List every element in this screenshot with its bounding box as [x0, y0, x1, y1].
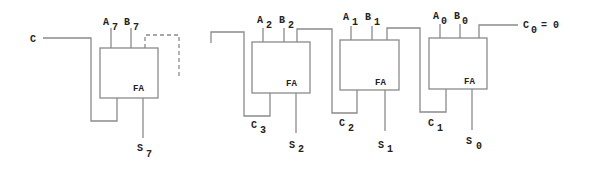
fa7-label: FA: [133, 84, 144, 94]
s7-subscript: 7: [146, 149, 152, 160]
full-adder-0: FA A 0 B 0 C 0 = 0 S 0 C 1: [428, 11, 559, 152]
fa0-label: FA: [464, 77, 475, 87]
a1-subscript: 1: [352, 17, 358, 28]
b7-subscript: 7: [133, 22, 139, 33]
fa0-box: [429, 38, 487, 89]
fa1-box: [340, 40, 399, 90]
b1-subscript: 1: [374, 17, 380, 28]
s2-label: S: [289, 140, 295, 151]
carry-out-label: C: [30, 34, 36, 45]
b2-label: B: [279, 15, 285, 26]
a7-subscript: 7: [112, 22, 118, 33]
fa2-label: FA: [286, 79, 297, 89]
c0-value: = 0: [541, 20, 559, 31]
c2-subscript: 2: [348, 123, 354, 134]
b7-label: B: [124, 17, 130, 28]
c0-subscript: 0: [531, 25, 537, 36]
a1-label: A: [343, 12, 349, 23]
full-adder-2: FA A 2 B 2 S 2 C 3: [211, 15, 310, 155]
fa1-label: FA: [375, 78, 386, 88]
c1-subscript: 1: [437, 123, 443, 134]
s2-subscript: 2: [298, 144, 304, 155]
fa7-box: [100, 48, 158, 98]
b2-subscript: 2: [288, 20, 294, 31]
c3-subscript: 3: [260, 125, 266, 136]
fa2-box: [252, 42, 310, 93]
diagram-svg: C FA A 7 B 7 S 7 FA A 2 B 2 S 2 C 3 FA: [0, 0, 589, 171]
c2-label: C: [339, 118, 345, 129]
full-adder-7: C FA A 7 B 7 S 7: [30, 17, 179, 160]
a0-label: A: [433, 11, 439, 22]
s0-label: S: [466, 136, 472, 147]
b0-label: B: [454, 11, 460, 22]
a7-label: A: [103, 17, 109, 28]
c0-label: C: [523, 20, 529, 31]
a2-subscript: 2: [266, 20, 272, 31]
s7-label: S: [137, 143, 143, 154]
b1-label: B: [365, 12, 371, 23]
c1-label: C: [428, 118, 434, 129]
ripple-carry-adder-diagram: C FA A 7 B 7 S 7 FA A 2 B 2 S 2 C 3 FA: [0, 0, 589, 171]
s0-subscript: 0: [476, 141, 482, 152]
a0-subscript: 0: [441, 16, 447, 27]
full-adder-1: FA A 1 B 1 S 1 C 2: [339, 12, 399, 155]
s1-label: S: [378, 140, 384, 151]
c3-label: C: [251, 120, 257, 131]
carry-in-0-wire: [479, 25, 518, 38]
b0-subscript: 0: [462, 16, 468, 27]
s1-subscript: 1: [387, 144, 393, 155]
a2-label: A: [257, 15, 263, 26]
